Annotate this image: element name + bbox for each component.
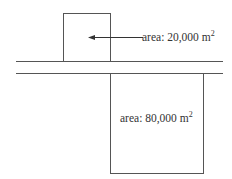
road-top-line: [16, 61, 223, 62]
large-area-label: area: 80,000 m2: [120, 110, 193, 124]
arrow-icon: [86, 33, 144, 42]
small-area-label: area: 20,000 m2: [142, 29, 215, 43]
